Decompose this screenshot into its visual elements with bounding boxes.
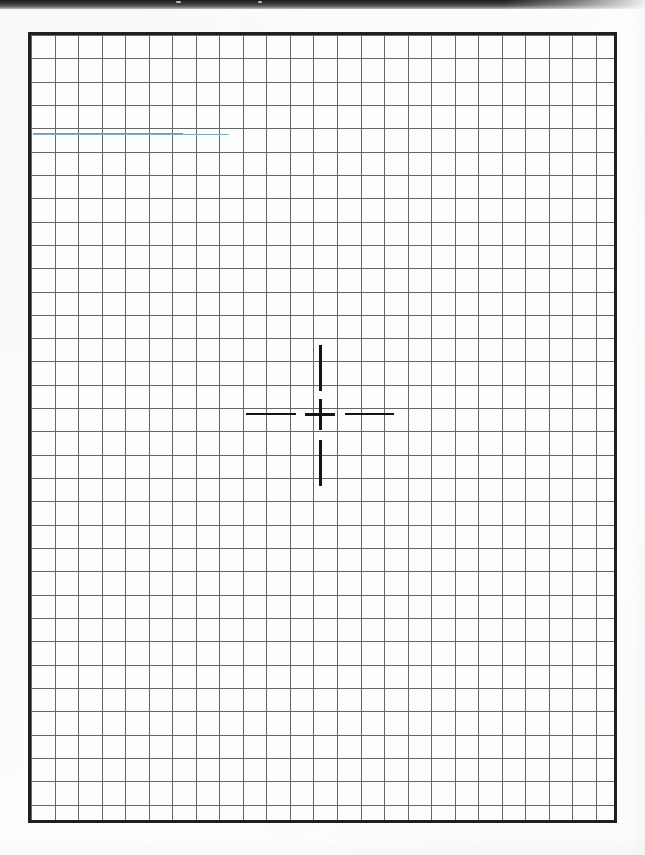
scan-speck-icon [258,1,262,3]
paper-right-edge-shadow [631,9,645,855]
grid-lines [31,35,614,820]
scan-speck-icon [176,1,181,3]
scanned-page [0,0,645,855]
paper-surface [0,9,645,855]
graph-paper-grid [28,32,617,823]
paper-bottom-edge-shadow [0,839,645,855]
scanner-dark-edge-band [0,0,645,9]
scan-band-fade-overlay [0,0,645,9]
